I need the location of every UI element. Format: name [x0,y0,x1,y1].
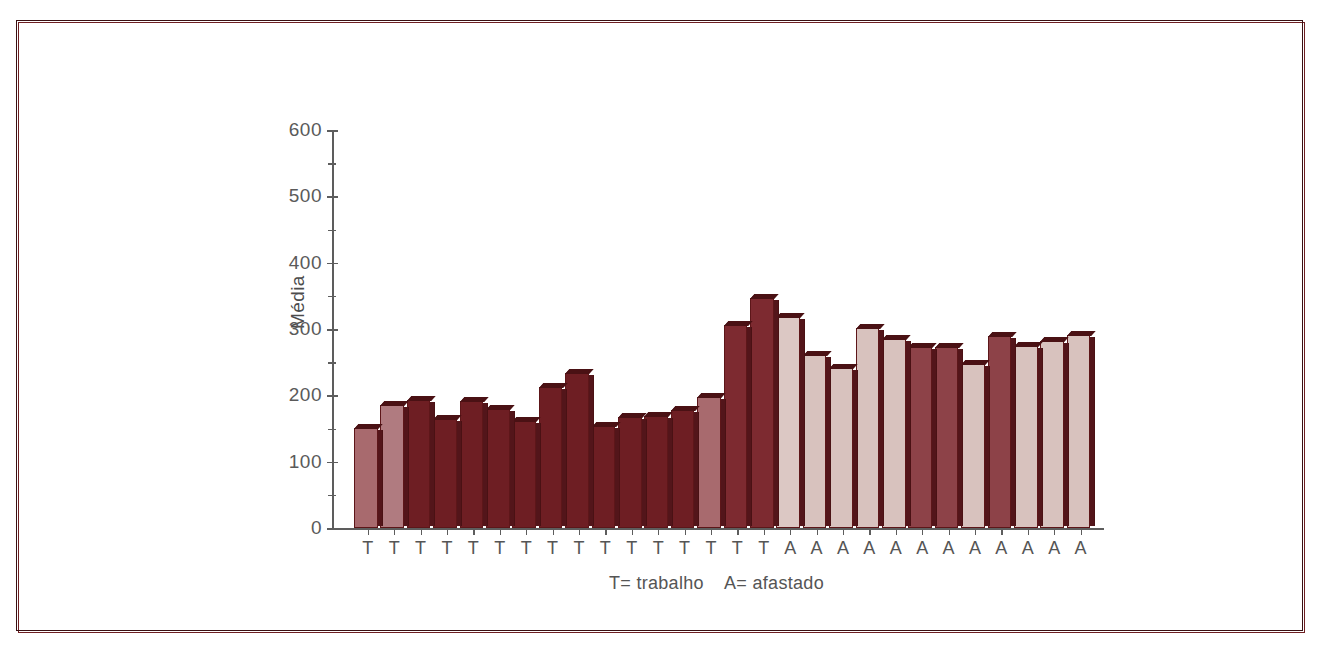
y-tick-label: 600 [289,119,322,141]
bar [512,421,536,528]
bar-top [644,412,672,417]
x-tick [1054,528,1055,535]
bar [433,419,457,528]
bar-face [1067,335,1091,528]
bar-top [697,393,725,398]
x-tick [394,528,395,535]
bar-side [800,319,805,526]
y-tick-label: 300 [289,318,322,340]
x-tick [869,528,870,535]
bar-top [354,424,382,429]
bar-side [985,366,990,526]
x-tick [843,528,844,535]
bar-side [721,399,726,526]
bar-face [724,325,748,528]
bar-face [460,401,484,528]
bar-face [1014,346,1038,528]
bar [460,401,484,528]
x-tick-label: T [727,538,747,559]
bar [1040,341,1064,528]
x-tick [579,528,580,535]
bar-top [1040,337,1068,342]
bar-face [697,397,721,528]
bar [724,325,748,528]
bar-face [539,387,563,528]
x-tick [922,528,923,535]
x-tick [711,528,712,535]
x-tick-label: T [411,538,431,559]
bar [1067,335,1091,528]
bar-face [618,417,642,528]
x-tick-label: A [965,538,985,559]
bar-top [460,397,488,402]
x-tick [975,528,976,535]
bar-face [908,347,932,528]
bar [618,417,642,528]
x-tick [632,528,633,535]
bar-side [906,341,911,526]
bar-side [694,412,699,526]
bar [592,426,616,528]
x-tick-label: T [384,538,404,559]
x-tick-label: T [622,538,642,559]
bar-top [803,351,831,356]
bar-face [1040,341,1064,528]
bar-side [589,375,594,526]
bar-top [512,417,540,422]
x-tick [764,528,765,535]
bar-top [433,415,461,420]
bar-top [380,401,408,406]
bar [882,339,906,528]
bar-side [404,407,409,526]
x-tick-label: A [1044,538,1064,559]
x-tick [658,528,659,535]
bar [856,328,880,528]
x-tick-label: A [939,538,959,559]
x-tick-label: T [648,538,668,559]
y-tick-label: 200 [289,384,322,406]
bar [908,347,932,528]
x-tick-label: T [701,538,721,559]
x-tick [473,528,474,535]
x-tick-label: A [859,538,879,559]
bar [407,400,431,528]
bar [750,298,774,528]
x-tick [949,528,950,535]
bar-top [935,343,963,348]
bar [935,347,959,528]
figure-frame: Média 0100200300400500600 TTTTTTTTTTTTTT… [18,22,1305,633]
bar-side [642,419,647,526]
bar-top [618,413,646,418]
plot-area: 0100200300400500600 TTTTTTTTTTTTTTTTAAAA… [332,130,1102,528]
bar [803,355,827,528]
bar-face [856,328,880,528]
bar-top [988,332,1016,337]
bar-face [829,368,853,528]
bar-top [671,406,699,411]
y-tick-label: 100 [289,450,322,472]
bar-face [935,347,959,528]
x-tick [1081,528,1082,535]
bar [988,336,1012,528]
x-tick-label: T [437,538,457,559]
bar-face [407,400,431,528]
bar [565,373,589,528]
bar-top [539,383,567,388]
bar-side [826,357,831,526]
x-tick-label: A [807,538,827,559]
x-tick [817,528,818,535]
bar-top [486,405,514,410]
chart-caption: T= trabalho A= afastado [609,573,824,594]
x-tick-label: T [358,538,378,559]
x-tick-label: A [1071,538,1091,559]
bar [671,410,695,528]
bar-side [879,330,884,526]
y-tick-label: 400 [289,251,322,273]
bar-top [565,369,593,374]
x-tick-label: T [569,538,589,559]
x-tick-label: A [833,538,853,559]
bar-top [829,364,857,369]
bar [829,368,853,528]
bar-top [776,313,804,318]
bar [644,416,668,528]
